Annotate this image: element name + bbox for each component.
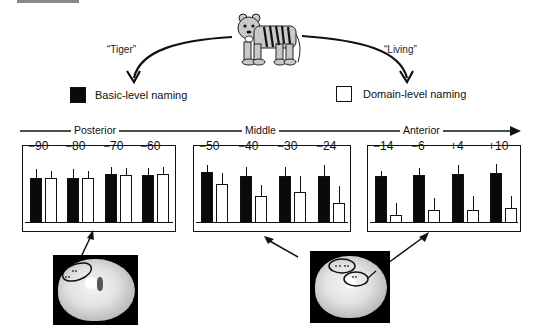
axis-label-anterior: Anterior [400,124,443,136]
bar-domain [82,178,94,223]
bar-basic [30,178,42,223]
domain-response-label: “Living” [384,44,417,55]
coord-label: −14 [373,139,413,153]
roi-ellipse-icon [53,255,138,325]
brain-slice-posterior [53,255,138,325]
coord-label: −50 [199,139,239,153]
coord-label: −30 [277,139,317,153]
legend-swatch-basic [70,87,86,103]
bar-group: −50 [199,153,233,223]
bar-domain [505,208,517,223]
coord-label: −40 [238,139,278,153]
bar-group: −60 [140,153,174,223]
bar-group: −14 [373,153,407,223]
bar-basic [490,173,502,223]
bar-group: −80 [65,153,99,223]
coord-label: −90 [28,139,68,153]
bar-basic [318,176,330,223]
axis-label-posterior: Posterior [71,124,119,136]
bar-basic [142,175,154,223]
coord-label: +4 [450,139,490,153]
bar-basic [375,176,387,223]
bar-group: −70 [103,153,137,223]
bar-group: +4 [450,153,484,223]
legend-label-basic: Basic-level naming [95,89,187,101]
legend-label-domain: Domain-level naming [363,88,466,100]
bar-group: −24 [316,153,350,223]
basic-response-label: “Tiger” [107,44,136,55]
bar-group: −6 [411,153,445,223]
coord-label: −70 [103,139,143,153]
bar-basic [279,176,291,223]
bar-basic [452,174,464,223]
coord-label: −60 [140,139,180,153]
bar-domain [216,184,228,223]
bar-basic [67,178,79,223]
panel-middle: −50 −40 −30 −24 [193,145,351,232]
bar-basic [240,176,252,223]
coord-label: −24 [316,139,356,153]
bar-basic [413,175,425,223]
bar-group: −90 [28,153,62,223]
axis-label-middle: Middle [242,124,279,136]
bar-basic [201,172,213,223]
bar-group: +10 [488,153,522,223]
coord-label: −6 [411,139,451,153]
coord-label: −80 [65,139,105,153]
roi-ellipse-icon [310,251,390,323]
bar-domain [45,178,57,223]
panel-anterior: −14 −6 +4 +10 [367,145,521,232]
bar-domain [157,174,169,223]
bar-domain [467,210,479,223]
panel-posterior: −90 −80 −70 −60 [22,145,176,232]
bar-domain [390,215,402,223]
bar-group: −40 [238,153,272,223]
bar-domain [294,192,306,223]
bar-domain [120,175,132,223]
bar-domain [333,203,345,223]
bar-basic [105,174,117,223]
bar-domain [255,196,267,223]
bar-domain [428,210,440,223]
legend-swatch-domain [336,86,352,102]
brain-slice-anterior [310,251,390,323]
coord-label: +10 [488,139,528,153]
bar-group: −30 [277,153,311,223]
